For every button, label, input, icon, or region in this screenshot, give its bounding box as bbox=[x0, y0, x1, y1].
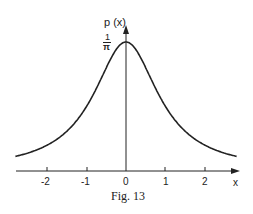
y-tick-numerator: 1 bbox=[105, 33, 110, 42]
figure-caption: Fig. 13 bbox=[111, 189, 145, 204]
x-tick-label: 2 bbox=[202, 177, 208, 187]
x-tick-label: 1 bbox=[163, 177, 169, 187]
y-axis-label: p (x) bbox=[104, 17, 126, 28]
x-axis-arrow-icon bbox=[231, 168, 240, 174]
x-tick-label: 0 bbox=[123, 177, 129, 187]
x-tick-label: -1 bbox=[81, 177, 90, 187]
y-tick-denominator: π bbox=[103, 43, 110, 52]
x-axis-label: x bbox=[233, 178, 238, 188]
x-tick-label: -2 bbox=[41, 177, 50, 187]
